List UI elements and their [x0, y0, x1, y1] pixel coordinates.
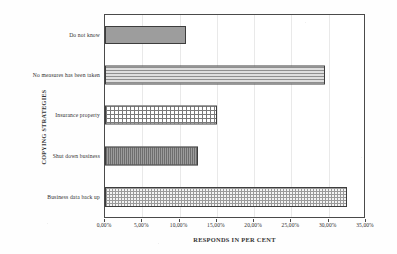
x-axis-title: RESPONDS IN PER CENT	[104, 236, 365, 243]
bar-chart: COPYING STRATEGIES Do not know No measur…	[0, 0, 397, 254]
x-tick-label-5: 5,00%	[134, 222, 149, 228]
x-tick-label-30: 30,00%	[319, 222, 337, 228]
category-label-business-data-back-up: Business data back up	[0, 194, 100, 200]
category-label-no-measures: No measures has been taken	[0, 72, 100, 78]
bar-no-measures-has-been-taken	[105, 66, 325, 85]
category-label-do-not-know: Do not know	[0, 32, 100, 38]
category-label-shut-down-business: Shut down business	[0, 153, 100, 159]
category-label-insurance-property: Insurance property	[0, 112, 100, 118]
x-tick-label-15: 15,00%	[207, 222, 225, 228]
bar-do-not-know	[105, 26, 186, 44]
x-tick-label-0: 0,00%	[97, 222, 112, 228]
x-tick-label-10: 10,00%	[170, 222, 188, 228]
bar-shut-down-business	[105, 147, 198, 166]
x-tick-label-25: 25,00%	[282, 222, 300, 228]
bar-insurance-property	[105, 106, 217, 125]
x-tick-label-20: 20,00%	[244, 222, 262, 228]
bar-business-data-back-up	[105, 187, 347, 207]
x-tick-label-35: 35,00%	[356, 222, 374, 228]
